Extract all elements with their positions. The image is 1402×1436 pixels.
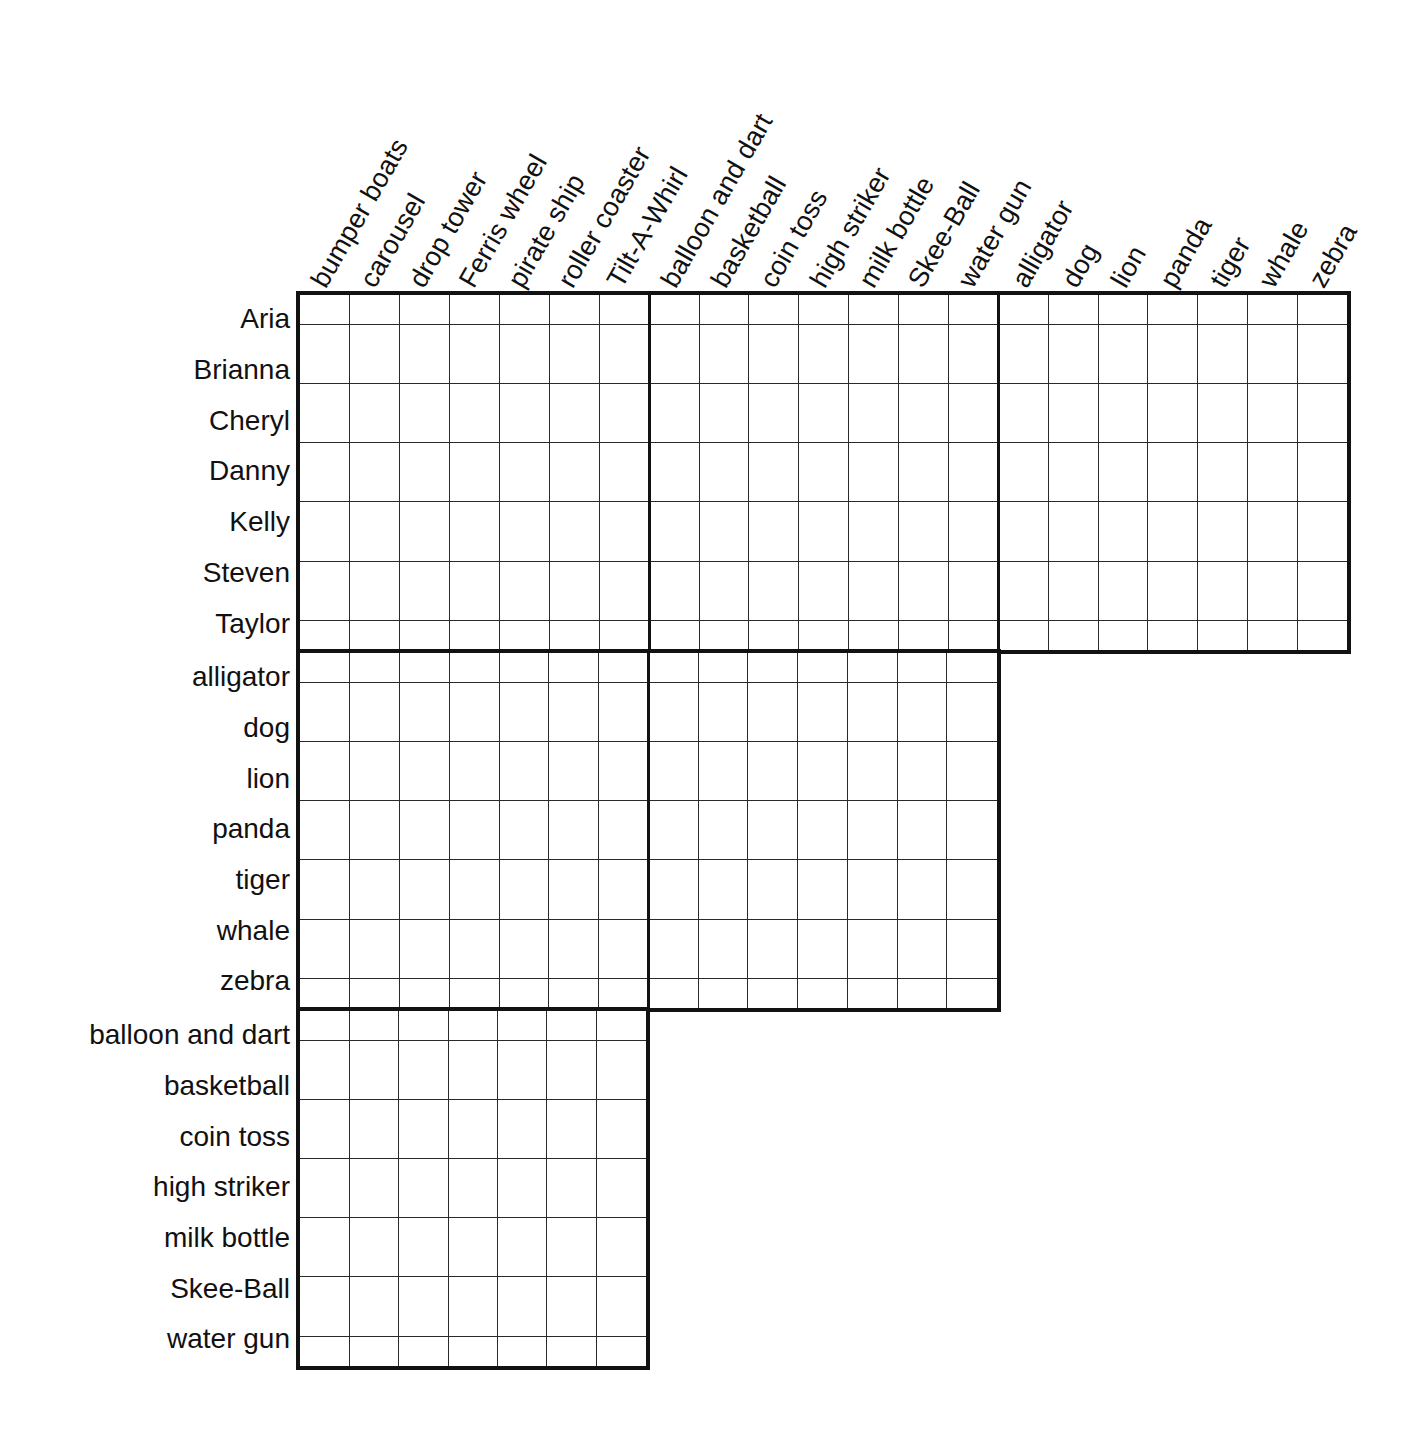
- cell-cheryl-tilt-a-whirl[interactable]: [599, 384, 649, 443]
- cell-balloon-and-dart-pirate-ship[interactable]: [498, 1011, 547, 1041]
- cell-balloon-and-dart-ferris-wheel[interactable]: [448, 1011, 497, 1041]
- cell-coin-toss-ferris-wheel[interactable]: [448, 1100, 497, 1159]
- cell-lion-ferris-wheel[interactable]: [449, 742, 499, 801]
- cell-panda-ferris-wheel[interactable]: [449, 801, 499, 860]
- cell-alligator-high-striker[interactable]: [798, 653, 848, 683]
- cell-steven-coin-toss[interactable]: [749, 561, 799, 620]
- cell-alligator-basketball[interactable]: [698, 653, 748, 683]
- cell-taylor-alligator[interactable]: [998, 620, 1048, 650]
- cell-brianna-basketball[interactable]: [699, 325, 749, 384]
- cell-brianna-high-striker[interactable]: [799, 325, 849, 384]
- cell-alligator-skee-ball[interactable]: [897, 653, 947, 683]
- cell-lion-water-gun[interactable]: [947, 742, 997, 801]
- cell-dog-milk-bottle[interactable]: [847, 682, 897, 741]
- cell-panda-carousel[interactable]: [350, 801, 400, 860]
- cell-alligator-bumper-boats[interactable]: [300, 653, 350, 683]
- cell-cheryl-water-gun[interactable]: [948, 384, 998, 443]
- cell-lion-basketball[interactable]: [698, 742, 748, 801]
- cell-dog-tilt-a-whirl[interactable]: [599, 682, 649, 741]
- cell-water-gun-pirate-ship[interactable]: [498, 1336, 547, 1366]
- cell-taylor-whale[interactable]: [1248, 620, 1298, 650]
- cell-brianna-coin-toss[interactable]: [749, 325, 799, 384]
- cell-aria-zebra[interactable]: [1298, 295, 1348, 325]
- cell-danny-ferris-wheel[interactable]: [450, 443, 500, 502]
- cell-lion-pirate-ship[interactable]: [499, 742, 549, 801]
- cell-water-gun-bumper-boats[interactable]: [300, 1336, 349, 1366]
- cell-kelly-coin-toss[interactable]: [749, 502, 799, 561]
- cell-kelly-bumper-boats[interactable]: [300, 502, 350, 561]
- cell-aria-high-striker[interactable]: [799, 295, 849, 325]
- cell-steven-milk-bottle[interactable]: [849, 561, 899, 620]
- cell-kelly-dog[interactable]: [1048, 502, 1098, 561]
- cell-cheryl-basketball[interactable]: [699, 384, 749, 443]
- cell-skee-ball-roller-coaster[interactable]: [547, 1277, 596, 1336]
- cell-dog-basketball[interactable]: [698, 682, 748, 741]
- cell-aria-milk-bottle[interactable]: [849, 295, 899, 325]
- cell-aria-whale[interactable]: [1248, 295, 1298, 325]
- cell-skee-ball-drop-tower[interactable]: [399, 1277, 448, 1336]
- cell-aria-bumper-boats[interactable]: [300, 295, 350, 325]
- cell-brianna-whale[interactable]: [1248, 325, 1298, 384]
- cell-kelly-alligator[interactable]: [998, 502, 1048, 561]
- cell-alligator-roller-coaster[interactable]: [549, 653, 599, 683]
- cell-alligator-ferris-wheel[interactable]: [449, 653, 499, 683]
- cell-basketball-ferris-wheel[interactable]: [448, 1040, 497, 1099]
- cell-high-striker-roller-coaster[interactable]: [547, 1159, 596, 1218]
- cell-high-striker-drop-tower[interactable]: [399, 1159, 448, 1218]
- cell-danny-roller-coaster[interactable]: [549, 443, 599, 502]
- cell-basketball-carousel[interactable]: [349, 1040, 398, 1099]
- cell-steven-carousel[interactable]: [350, 561, 400, 620]
- cell-panda-basketball[interactable]: [698, 801, 748, 860]
- cell-kelly-basketball[interactable]: [699, 502, 749, 561]
- cell-aria-balloon-and-dart[interactable]: [649, 295, 699, 325]
- cell-panda-skee-ball[interactable]: [897, 801, 947, 860]
- cell-steven-bumper-boats[interactable]: [300, 561, 350, 620]
- cell-brianna-skee-ball[interactable]: [899, 325, 949, 384]
- cell-tiger-roller-coaster[interactable]: [549, 860, 599, 919]
- cell-zebra-ferris-wheel[interactable]: [449, 978, 499, 1008]
- cell-steven-whale[interactable]: [1248, 561, 1298, 620]
- cell-tiger-coin-toss[interactable]: [748, 860, 798, 919]
- cell-aria-coin-toss[interactable]: [749, 295, 799, 325]
- cell-danny-alligator[interactable]: [998, 443, 1048, 502]
- cell-cheryl-drop-tower[interactable]: [400, 384, 450, 443]
- cell-whale-high-striker[interactable]: [798, 919, 848, 978]
- cell-lion-balloon-and-dart[interactable]: [648, 742, 698, 801]
- cell-steven-lion[interactable]: [1098, 561, 1148, 620]
- cell-whale-carousel[interactable]: [350, 919, 400, 978]
- cell-kelly-tiger[interactable]: [1198, 502, 1248, 561]
- cell-brianna-alligator[interactable]: [998, 325, 1048, 384]
- cell-balloon-and-dart-carousel[interactable]: [349, 1011, 398, 1041]
- cell-brianna-carousel[interactable]: [350, 325, 400, 384]
- cell-aria-pirate-ship[interactable]: [500, 295, 550, 325]
- cell-steven-drop-tower[interactable]: [400, 561, 450, 620]
- cell-balloon-and-dart-drop-tower[interactable]: [399, 1011, 448, 1041]
- cell-aria-dog[interactable]: [1048, 295, 1098, 325]
- cell-steven-panda[interactable]: [1148, 561, 1198, 620]
- cell-panda-milk-bottle[interactable]: [847, 801, 897, 860]
- cell-dog-pirate-ship[interactable]: [499, 682, 549, 741]
- cell-danny-milk-bottle[interactable]: [849, 443, 899, 502]
- cell-basketball-bumper-boats[interactable]: [300, 1040, 349, 1099]
- cell-water-gun-tilt-a-whirl[interactable]: [596, 1336, 645, 1366]
- cell-danny-skee-ball[interactable]: [899, 443, 949, 502]
- cell-alligator-water-gun[interactable]: [947, 653, 997, 683]
- cell-cheryl-bumper-boats[interactable]: [300, 384, 350, 443]
- cell-zebra-basketball[interactable]: [698, 978, 748, 1008]
- cell-basketball-roller-coaster[interactable]: [547, 1040, 596, 1099]
- cell-dog-ferris-wheel[interactable]: [449, 682, 499, 741]
- cell-lion-milk-bottle[interactable]: [847, 742, 897, 801]
- cell-whale-tilt-a-whirl[interactable]: [599, 919, 649, 978]
- cell-danny-dog[interactable]: [1048, 443, 1098, 502]
- cell-aria-carousel[interactable]: [350, 295, 400, 325]
- cell-aria-panda[interactable]: [1148, 295, 1198, 325]
- cell-steven-zebra[interactable]: [1298, 561, 1348, 620]
- cell-danny-balloon-and-dart[interactable]: [649, 443, 699, 502]
- cell-cheryl-roller-coaster[interactable]: [549, 384, 599, 443]
- cell-skee-ball-ferris-wheel[interactable]: [448, 1277, 497, 1336]
- cell-taylor-high-striker[interactable]: [799, 620, 849, 650]
- cell-taylor-lion[interactable]: [1098, 620, 1148, 650]
- cell-alligator-balloon-and-dart[interactable]: [648, 653, 698, 683]
- cell-taylor-coin-toss[interactable]: [749, 620, 799, 650]
- cell-danny-water-gun[interactable]: [948, 443, 998, 502]
